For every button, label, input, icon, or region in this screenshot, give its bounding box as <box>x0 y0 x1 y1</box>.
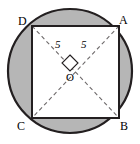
center-point-label-o: O <box>66 72 74 83</box>
vertex-label-b: B <box>120 120 128 132</box>
vertex-label-d: D <box>18 15 27 27</box>
vertex-label-c: C <box>17 120 25 132</box>
measure-label-radius-left: 5 <box>55 39 61 50</box>
measure-label-radius-right: 5 <box>81 39 87 50</box>
vertex-label-a: A <box>119 14 128 26</box>
geometry-figure: D A B C 5 5 O <box>0 0 140 144</box>
